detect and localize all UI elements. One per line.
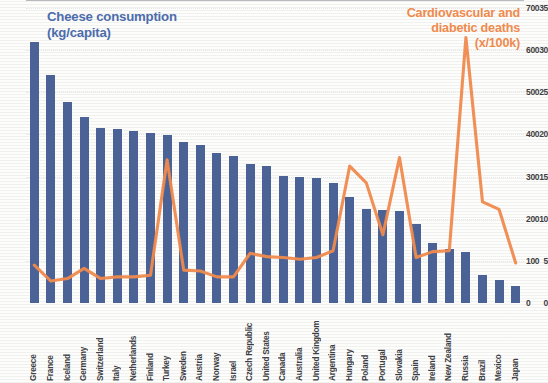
x-axis-category-label: Austria — [195, 305, 204, 381]
x-axis-category-label: Italy — [112, 305, 121, 381]
x-axis-category-label: Sweden — [179, 305, 188, 381]
x-axis-category-label: Argentina — [328, 305, 337, 381]
x-axis-category-label: Norway — [212, 305, 221, 381]
x-axis-category-label: Hungary — [345, 305, 354, 381]
y-axis-right-tick-label: 200 — [526, 214, 539, 224]
cheese-vs-deaths-chart: 05101520253035 0100200300400500600700 Ch… — [0, 0, 548, 383]
x-axis-category-label: Mexico — [494, 305, 503, 381]
x-axis-category-label: Finland — [146, 305, 155, 381]
x-axis-category-label: Czech Republic — [245, 305, 254, 381]
x-axis-category-label: United States — [262, 305, 271, 381]
x-axis-category-label: New Zealand — [444, 305, 453, 381]
x-axis-category-label: Canada — [278, 305, 287, 381]
x-axis-category-label: Japan — [511, 305, 520, 381]
x-axis-category-label: Poland — [361, 305, 370, 381]
x-axis-category-label: Switzerland — [96, 305, 105, 381]
line-series-path-group — [26, 8, 524, 303]
x-axis-category-label: Slovakia — [395, 305, 404, 381]
x-axis-category-label: Netherlands — [129, 305, 138, 381]
x-axis-category-label: United Kingdom — [312, 305, 321, 381]
x-axis-category-label: Turkey — [162, 305, 171, 381]
x-axis-category-label: Portugal — [378, 305, 387, 381]
y-axis-right-tick-label: 600 — [526, 45, 539, 55]
x-axis-category-label: Iceland — [63, 305, 72, 381]
x-axis-baseline — [26, 0, 524, 1]
x-axis-category-label: Spain — [411, 305, 420, 381]
y-axis-right-tick-label: 300 — [526, 172, 539, 182]
y-axis-right-tick-label: 400 — [526, 129, 539, 139]
x-axis-category-label: Germany — [79, 305, 88, 381]
x-axis-category-label: Australia — [295, 305, 304, 381]
y-axis-right-tick-label: 0 — [526, 298, 530, 308]
x-axis-category-label: France — [46, 305, 55, 381]
x-axis-category-label: Israel — [229, 305, 238, 381]
plot-area — [26, 8, 524, 303]
y-axis-right-tick-label: 700 — [526, 3, 539, 13]
x-axis-category-label: Ireland — [428, 305, 437, 381]
x-axis-category-label: Greece — [29, 305, 38, 381]
x-axis-category-label: Brazil — [478, 305, 487, 381]
x-axis-category-label: Russia — [461, 305, 470, 381]
deaths-line-path — [34, 38, 515, 282]
y-axis-right-tick-label: 500 — [526, 87, 539, 97]
y-axis-right-tick-label: 100 — [526, 256, 539, 266]
